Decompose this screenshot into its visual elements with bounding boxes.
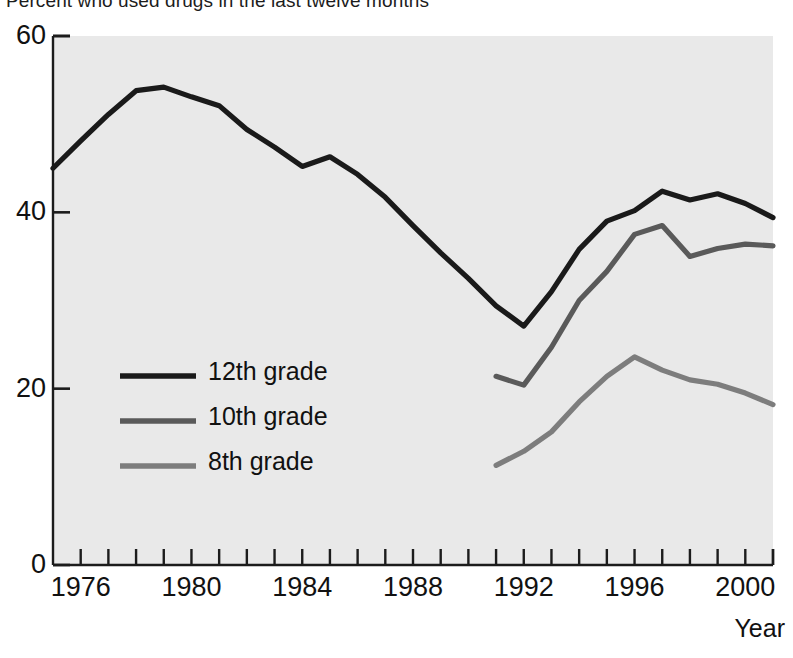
plot-texture: [53, 36, 773, 565]
x-tick-label: 1996: [590, 574, 680, 601]
x-tick-label: 1984: [257, 574, 347, 601]
x-tick-label: 1980: [146, 574, 236, 601]
x-tick-label: 2000: [700, 574, 790, 601]
x-tick-label: 1992: [479, 574, 569, 601]
legend-label: 12th grade: [208, 359, 328, 384]
legend-label: 8th grade: [208, 449, 314, 474]
y-tick-label: 40: [0, 198, 46, 225]
y-tick-label: 20: [0, 375, 46, 402]
y-tick-label: 60: [0, 22, 46, 49]
x-tick-label: 1988: [368, 574, 458, 601]
legend-swatch-line: [118, 369, 200, 383]
legend-swatch-line: [118, 459, 200, 473]
legend-label: 10th grade: [208, 404, 328, 429]
chart-figure: Percent who used drugs in the last twelv…: [0, 0, 793, 658]
x-axis-title: Year: [734, 614, 785, 643]
plot-area: [0, 0, 793, 658]
legend-swatch-line: [118, 414, 200, 428]
x-tick-label: 1976: [36, 574, 126, 601]
